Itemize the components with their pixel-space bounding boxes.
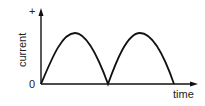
y-axis-arrow-icon xyxy=(39,8,44,16)
plus-label: + xyxy=(29,5,35,17)
y-axis-label: current xyxy=(16,33,28,67)
x-axis-label: time xyxy=(173,88,194,100)
current-time-diagram: + 0 current time xyxy=(0,0,205,106)
origin-label: 0 xyxy=(29,78,35,90)
rectified-current-curve xyxy=(41,33,174,84)
x-axis-arrow-icon xyxy=(190,82,198,87)
